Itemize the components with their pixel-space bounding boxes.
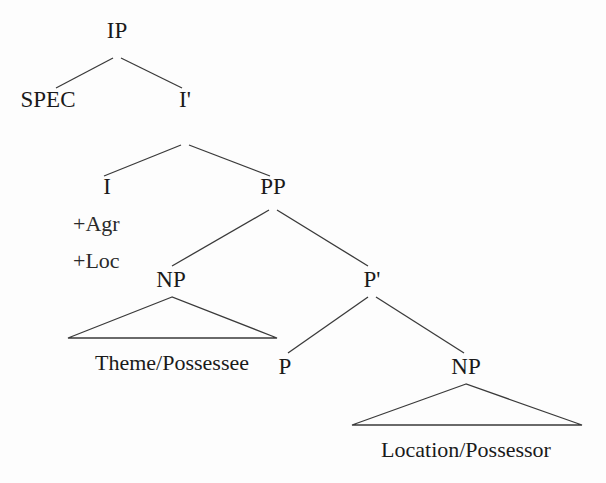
feature-agr: +Agr xyxy=(73,211,120,236)
syntax-tree-figure: IP SPEC I' I PP NP P' P NP +Agr +Loc The… xyxy=(0,0,606,483)
edge-pbar-p xyxy=(288,297,368,353)
edge-ibar-pp xyxy=(189,145,270,176)
node-np-right: NP xyxy=(451,354,480,379)
edge-pp-np xyxy=(172,210,269,266)
feature-annotations: +Agr +Loc xyxy=(73,211,120,273)
node-p-bar: P' xyxy=(364,267,381,292)
syntax-tree-canvas: IP SPEC I' I PP NP P' P NP +Agr +Loc The… xyxy=(0,0,606,483)
node-i: I xyxy=(103,174,111,199)
edge-pbar-np xyxy=(376,297,464,353)
terminal-theme-possessee: Theme/Possessee xyxy=(95,350,249,375)
node-ip: IP xyxy=(107,18,127,43)
terminal-location-possessor: Location/Possessor xyxy=(381,437,552,462)
node-i-bar: I' xyxy=(179,87,191,112)
np-left-triangle xyxy=(68,297,277,338)
edge-ip-spec xyxy=(56,58,113,88)
feature-loc: +Loc xyxy=(73,248,120,273)
np-right-triangle xyxy=(352,384,582,425)
node-spec: SPEC xyxy=(21,87,76,112)
node-labels: IP SPEC I' I PP NP P' P NP xyxy=(21,18,481,379)
edge-ip-ibar xyxy=(121,58,182,88)
node-p: P xyxy=(279,354,292,379)
node-pp: PP xyxy=(260,174,286,199)
edge-ibar-i xyxy=(104,145,181,176)
node-np-left: NP xyxy=(156,267,185,292)
terminal-labels: Theme/Possessee Location/Possessor xyxy=(95,350,552,462)
branch-edges xyxy=(56,58,464,353)
edge-pp-pbar xyxy=(277,210,368,266)
